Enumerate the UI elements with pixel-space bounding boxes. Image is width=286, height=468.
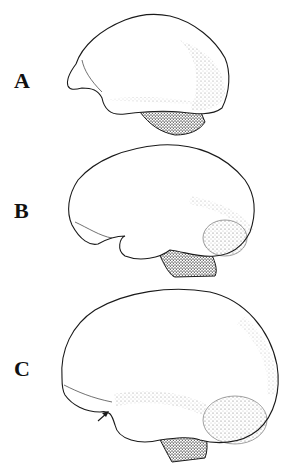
brain-c — [62, 289, 278, 462]
brain-illustrations — [0, 0, 286, 468]
brain-b — [69, 145, 254, 277]
brain-a — [67, 14, 228, 135]
